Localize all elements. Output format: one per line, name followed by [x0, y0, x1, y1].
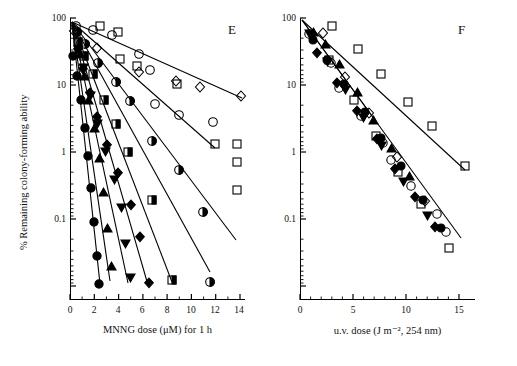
- panel-e-canvas: [0, 0, 265, 366]
- panel-f: F 100 10 1 0.1 0 5 10 15 u.v. dose (J m⁻…: [265, 0, 517, 366]
- figure-root: E 100 10 1 0.1 0 2 4 6 8 10 12 14 MNNG d…: [0, 0, 517, 366]
- panel-e: E 100 10 1 0.1 0 2 4 6 8 10 12 14 MNNG d…: [0, 0, 265, 366]
- panel-f-canvas: [265, 0, 517, 366]
